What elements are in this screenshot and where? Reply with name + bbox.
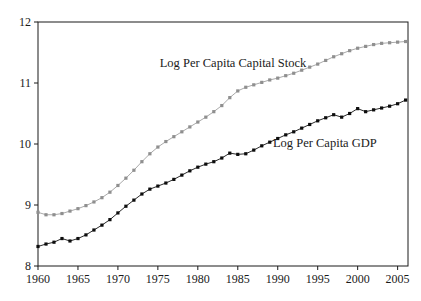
gdp-data-point — [52, 241, 55, 244]
gdp-data-point — [44, 242, 47, 245]
gdp-data-point — [364, 110, 367, 113]
y-axis-tick-label: 11 — [19, 76, 31, 90]
capital-stock-data-point — [308, 66, 311, 69]
capital-stock-data-point — [76, 207, 79, 210]
capital-stock-series-label: Log Per Capita Capital Stock — [160, 56, 307, 70]
gdp-data-point — [124, 205, 127, 208]
gdp-data-point — [308, 123, 311, 126]
y-axis-tick-label: 12 — [19, 15, 31, 29]
capital-stock-data-point — [44, 213, 47, 216]
capital-stock-data-point — [108, 191, 111, 194]
capital-stock-data-point — [124, 177, 127, 180]
gdp-data-point — [100, 224, 103, 227]
gdp-data-point — [76, 237, 79, 240]
gdp-data-point — [172, 178, 175, 181]
gdp-data-point — [340, 116, 343, 119]
capital-stock-data-point — [156, 145, 159, 148]
x-axis-tick-label: 1960 — [26, 272, 50, 286]
gdp-data-point — [268, 141, 271, 144]
gdp-data-point — [356, 107, 359, 110]
gdp-data-point — [300, 127, 303, 130]
gdp-data-point — [228, 152, 231, 155]
capital-stock-data-point — [396, 41, 399, 44]
capital-stock-data-point — [220, 104, 223, 107]
line-chart: 8910111219601965197019751980198519901995… — [0, 0, 421, 301]
capital-stock-data-point — [324, 59, 327, 62]
capital-stock-data-point — [116, 184, 119, 187]
capital-stock-data-point — [204, 116, 207, 119]
capital-stock-data-point — [60, 212, 63, 215]
capital-stock-data-point — [236, 89, 239, 92]
gdp-data-point — [388, 105, 391, 108]
capital-stock-data-point — [92, 200, 95, 203]
y-axis-tick-label: 9 — [25, 198, 31, 212]
capital-stock-data-point — [84, 204, 87, 207]
gdp-data-point — [92, 228, 95, 231]
capital-stock-data-point — [356, 47, 359, 50]
capital-stock-data-point — [188, 125, 191, 128]
capital-stock-data-point — [268, 78, 271, 81]
x-axis-tick-label: 1985 — [226, 272, 250, 286]
capital-stock-data-point — [52, 213, 55, 216]
gdp-data-point — [180, 174, 183, 177]
gdp-data-point — [84, 233, 87, 236]
capital-stock-data-point — [364, 45, 367, 48]
capital-stock-data-point — [404, 40, 407, 43]
y-axis-tick-label: 8 — [25, 259, 31, 273]
capital-stock-data-point — [36, 211, 39, 214]
x-axis-tick-label: 1965 — [66, 272, 90, 286]
gdp-data-point — [236, 153, 239, 156]
gdp-data-point — [116, 211, 119, 214]
y-axis-tick-label: 10 — [19, 137, 31, 151]
capital-stock-data-point — [284, 74, 287, 77]
gdp-data-point — [396, 102, 399, 105]
capital-stock-data-point — [292, 72, 295, 75]
gdp-data-point — [404, 98, 407, 101]
gdp-data-point — [212, 160, 215, 163]
gdp-data-point — [156, 184, 159, 187]
capital-stock-data-point — [148, 152, 151, 155]
gdp-data-point — [68, 239, 71, 242]
x-axis-tick-label: 1995 — [306, 272, 330, 286]
gdp-data-point — [244, 152, 247, 155]
gdp-data-point — [108, 218, 111, 221]
capital-stock-data-point — [380, 42, 383, 45]
capital-stock-data-point — [140, 160, 143, 163]
capital-stock-data-point — [68, 210, 71, 213]
capital-stock-data-point — [228, 96, 231, 99]
capital-stock-data-point — [260, 81, 263, 84]
gdp-data-point — [332, 113, 335, 116]
x-axis-tick-label: 1970 — [106, 272, 130, 286]
capital-stock-data-point — [244, 86, 247, 89]
capital-stock-data-point — [340, 52, 343, 55]
capital-stock-data-point — [252, 83, 255, 86]
capital-stock-data-point — [180, 130, 183, 133]
capital-stock-data-point — [388, 41, 391, 44]
gdp-data-point — [196, 166, 199, 169]
gdp-data-point — [188, 169, 191, 172]
gdp-data-point — [380, 106, 383, 109]
capital-stock-data-point — [196, 120, 199, 123]
capital-stock-data-point — [100, 196, 103, 199]
x-axis-tick-label: 1990 — [266, 272, 290, 286]
gdp-data-point — [164, 181, 167, 184]
x-axis-tick-label: 2005 — [386, 272, 410, 286]
capital-stock-data-point — [164, 140, 167, 143]
gdp-series-line — [38, 100, 406, 246]
capital-stock-data-point — [372, 43, 375, 46]
capital-stock-data-point — [172, 135, 175, 138]
gdp-data-point — [36, 245, 39, 248]
capital-stock-data-point — [132, 169, 135, 172]
gdp-data-point — [148, 188, 151, 191]
x-axis-tick-label: 1980 — [186, 272, 210, 286]
gdp-series-label: Log Per Capita GDP — [273, 136, 377, 150]
gdp-data-point — [348, 112, 351, 115]
gdp-data-point — [140, 192, 143, 195]
gdp-data-point — [316, 119, 319, 122]
gdp-data-point — [204, 163, 207, 166]
gdp-data-point — [324, 116, 327, 119]
x-axis-tick-label: 2000 — [346, 272, 370, 286]
gdp-data-point — [292, 130, 295, 133]
gdp-data-point — [252, 149, 255, 152]
capital-stock-data-point — [332, 55, 335, 58]
